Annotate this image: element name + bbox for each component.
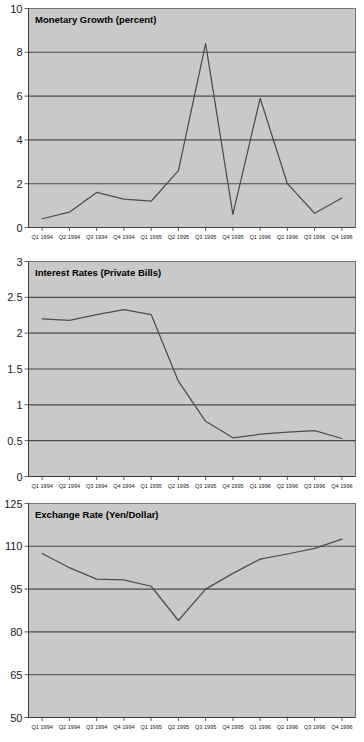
- x-axis-tick-label: Q2 1995: [168, 724, 189, 730]
- y-axis-ticks: [25, 504, 29, 718]
- y-axis-labels: 0246810: [10, 3, 22, 234]
- x-axis-tick-label: Q3 1995: [195, 724, 216, 730]
- y-axis-ticks: [25, 9, 29, 228]
- y-axis-tick-label: 3: [16, 256, 22, 268]
- x-axis-tick-label: Q4 1995: [222, 234, 243, 240]
- x-axis-labels: Q1 1994Q2 1994Q3 1994Q4 1994Q1 1995Q2 19…: [31, 483, 352, 489]
- y-axis-tick-label: 110: [5, 540, 23, 552]
- x-axis-tick-label: Q4 1995: [222, 483, 243, 489]
- y-axis-tick-label: 4: [16, 134, 22, 146]
- x-axis-tick-label: Q2 1994: [59, 234, 80, 240]
- y-axis-tick-label: 125: [4, 498, 22, 510]
- x-axis-tick-label: Q3 1996: [304, 483, 325, 489]
- y-axis-tick-label: 65: [10, 669, 22, 681]
- plot-background: [29, 504, 356, 718]
- y-axis-tick-label: 80: [10, 626, 22, 638]
- x-axis-tick-label: Q1 1994: [31, 483, 52, 489]
- x-axis-tick-label: Q4 1996: [331, 234, 352, 240]
- x-axis-tick-label: Q1 1996: [249, 483, 270, 489]
- y-axis-tick-label: 0: [16, 471, 22, 483]
- x-axis-tick-label: Q2 1994: [59, 483, 80, 489]
- y-axis-tick-label: 2: [16, 178, 22, 190]
- x-axis-ticks: [29, 228, 356, 232]
- y-axis-tick-label: 95: [10, 583, 22, 595]
- chart-title: Interest Rates (Private Bills): [35, 267, 161, 278]
- x-axis-tick-label: Q1 1994: [31, 724, 52, 730]
- chart-title: Monetary Growth (percent): [35, 14, 156, 25]
- y-axis-tick-label: 1: [16, 399, 22, 411]
- x-axis-tick-label: Q3 1994: [86, 234, 107, 240]
- x-axis-tick-label: Q1 1996: [249, 724, 270, 730]
- chart-monetary-growth: 0246810 Q1 1994Q2 1994Q3 1994Q4 1994Q1 1…: [0, 0, 364, 248]
- exchange-rate-plot: 50658095110125 Q1 1994Q2 1994Q3 1994Q4 1…: [0, 497, 364, 742]
- y-axis-tick-label: 6: [16, 90, 22, 102]
- y-axis-tick-label: 2.5: [7, 291, 22, 303]
- x-axis-ticks: [29, 477, 356, 481]
- x-axis-tick-label: Q3 1995: [195, 483, 216, 489]
- charts-page: 0246810 Q1 1994Q2 1994Q3 1994Q4 1994Q1 1…: [0, 0, 364, 742]
- x-axis-tick-label: Q1 1995: [140, 483, 161, 489]
- x-axis-labels: Q1 1994Q2 1994Q3 1994Q4 1994Q1 1995Q2 19…: [31, 234, 352, 240]
- x-axis-tick-label: Q2 1996: [277, 724, 298, 730]
- x-axis-tick-label: Q4 1994: [113, 483, 134, 489]
- y-axis-tick-label: 1.5: [7, 363, 22, 375]
- y-axis-tick-label: 10: [10, 3, 22, 15]
- plot-background: [29, 9, 356, 228]
- y-axis-tick-label: 0: [16, 222, 22, 234]
- x-axis-tick-label: Q4 1996: [331, 483, 352, 489]
- x-axis-tick-label: Q4 1994: [113, 234, 134, 240]
- interest-rates-plot: 00.511.522.53 Q1 1994Q2 1994Q3 1994Q4 19…: [0, 255, 364, 498]
- x-axis-tick-label: Q2 1996: [277, 234, 298, 240]
- chart-title: Exchange Rate (Yen/Dollar): [35, 509, 159, 520]
- x-axis-tick-label: Q2 1994: [59, 724, 80, 730]
- plot-area: [29, 9, 356, 228]
- y-axis-labels: 00.511.522.53: [7, 256, 22, 483]
- chart-exchange-rate: 50658095110125 Q1 1994Q2 1994Q3 1994Q4 1…: [0, 497, 364, 742]
- x-axis-tick-label: Q1 1995: [140, 724, 161, 730]
- x-axis-tick-label: Q2 1995: [168, 483, 189, 489]
- x-axis-tick-label: Q4 1994: [113, 724, 134, 730]
- x-axis-tick-label: Q1 1994: [31, 234, 52, 240]
- x-axis-tick-label: Q3 1996: [304, 234, 325, 240]
- x-axis-ticks: [29, 718, 356, 722]
- x-axis-tick-label: Q3 1994: [86, 483, 107, 489]
- chart-interest-rates: 00.511.522.53 Q1 1994Q2 1994Q3 1994Q4 19…: [0, 255, 364, 498]
- monetary-growth-plot: 0246810 Q1 1994Q2 1994Q3 1994Q4 1994Q1 1…: [0, 0, 364, 248]
- y-axis-tick-label: 8: [16, 46, 22, 58]
- x-axis-tick-label: Q1 1996: [249, 234, 270, 240]
- x-axis-labels: Q1 1994Q2 1994Q3 1994Q4 1994Q1 1995Q2 19…: [31, 724, 352, 730]
- x-axis-tick-label: Q3 1995: [195, 234, 216, 240]
- x-axis-tick-label: Q2 1996: [277, 483, 298, 489]
- y-axis-ticks: [25, 262, 29, 477]
- x-axis-tick-label: Q4 1995: [222, 724, 243, 730]
- y-axis-tick-label: 0.5: [7, 435, 22, 447]
- x-axis-tick-label: Q1 1995: [140, 234, 161, 240]
- x-axis-tick-label: Q3 1994: [86, 724, 107, 730]
- plot-area: [29, 504, 356, 718]
- x-axis-tick-label: Q4 1996: [331, 724, 352, 730]
- x-axis-tick-label: Q2 1995: [168, 234, 189, 240]
- y-axis-labels: 50658095110125: [4, 498, 22, 724]
- y-axis-tick-label: 2: [16, 327, 22, 339]
- y-axis-tick-label: 50: [10, 712, 22, 724]
- x-axis-tick-label: Q3 1996: [304, 724, 325, 730]
